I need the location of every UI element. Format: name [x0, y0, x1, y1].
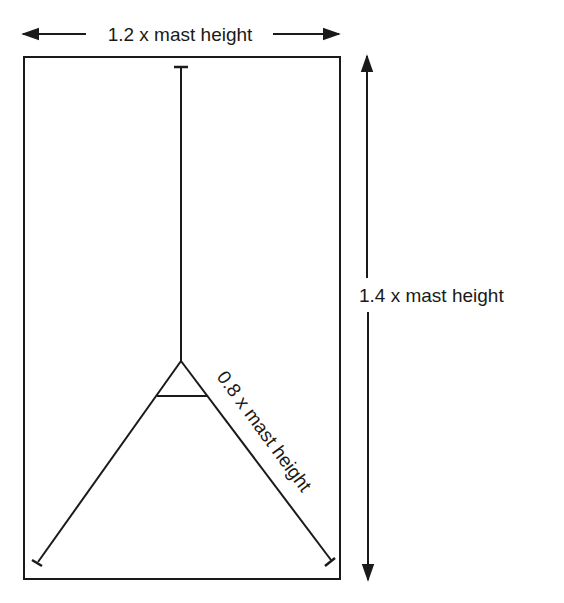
mast [174, 67, 188, 361]
leg-label: 0.8 x mast height [213, 367, 316, 496]
height-label: 1.4 x mast height [359, 285, 504, 306]
height-dimension: 1.4 x mast height [359, 56, 504, 580]
width-dimension: 1.2 x mast height [23, 24, 339, 45]
left-leg [38, 361, 181, 562]
left-leg-end-tick [32, 560, 42, 566]
right-leg [181, 361, 331, 560]
width-label: 1.2 x mast height [108, 24, 253, 45]
mast-layout-diagram: 1.2 x mast height 0.8 x mast height 1.4 … [0, 0, 564, 603]
